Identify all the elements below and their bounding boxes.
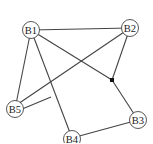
node-label-b2: B2: [124, 23, 136, 34]
edge-b2-b5: [15, 28, 130, 106]
node-label-b4: B4: [66, 134, 79, 144]
node-b5: B5: [7, 101, 24, 118]
node-b4: B4: [64, 131, 81, 144]
network-diagram: B1 B2 B3 B4 B5: [0, 0, 153, 143]
node-label-b3: B3: [132, 115, 144, 126]
junction-dot: [110, 78, 114, 82]
edge-b4-b3: [72, 120, 138, 138]
edge-b1-b2: [31, 28, 130, 30]
node-b2: B2: [122, 20, 139, 37]
node-label-b1: B1: [25, 25, 37, 36]
node-b3: B3: [130, 112, 147, 129]
node-b1: B1: [23, 22, 40, 39]
edge-b1-b4: [31, 30, 72, 138]
edges: [15, 28, 138, 138]
node-label-b5: B5: [9, 104, 21, 115]
edge-b1-junction: [31, 30, 112, 80]
